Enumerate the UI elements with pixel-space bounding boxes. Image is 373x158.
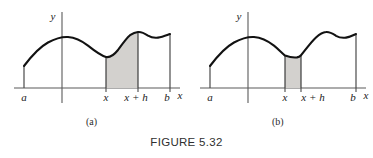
tick-label-a-left-b: a [207,91,213,103]
tick-label-x-plus-h-b: x + h [300,91,325,103]
tick-label-x-b: x [282,91,288,103]
y-axis-label-a: y [50,10,56,22]
tick-label-x-a: x [103,91,109,103]
figure-5-32: y a x x + h b x [0,0,373,158]
figure-caption: FIGURE 5.32 [0,136,373,148]
shaded-region-b [285,55,301,88]
y-axis-label-b: y [236,10,242,22]
function-curve-a [24,32,170,66]
function-curve-b [210,32,356,66]
tick-label-b-b: b [350,91,356,103]
panel-subcaption-a: (a) [86,116,97,127]
panel-subcaption-b: (b) [272,116,284,127]
x-axis-label-b: x [363,89,369,101]
tick-label-x-plus-h-a: x + h [123,91,148,103]
x-axis-label-a: x [177,89,183,101]
tick-label-b-a: b [164,91,170,103]
tick-label-a-left: a [21,91,27,103]
shaded-region-a [106,32,138,88]
